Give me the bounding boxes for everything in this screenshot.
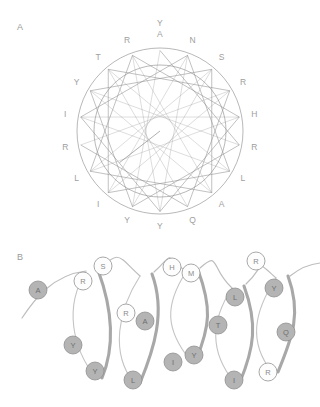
helix-back-arc — [119, 276, 140, 383]
residue-letter-label: A — [142, 317, 147, 326]
wheel-residue-label: Y — [74, 77, 80, 87]
wheel-residue-label: L — [74, 173, 79, 183]
helix-residue-node: I — [225, 371, 243, 389]
helix-turn-connector — [200, 261, 232, 288]
helix-residue-node: T — [209, 316, 227, 334]
wheel-residue-label: Y — [157, 18, 163, 28]
wheel-connector-line — [90, 117, 239, 171]
helix-residue-node: R — [259, 363, 277, 381]
residue-letter-label: M — [188, 269, 194, 278]
residue-letter-label: R — [265, 368, 271, 377]
helical-wheel-diagram: YANSRHRLAQYYILRIYTR — [62, 18, 258, 231]
helix-residue-node: I — [164, 353, 182, 371]
residue-letter-label: R — [123, 309, 129, 318]
helix-residue-node: S — [94, 257, 112, 275]
residue-letter-label: L — [131, 376, 135, 385]
helix-residue-node: R — [247, 252, 265, 270]
residue-letter-label: Y — [70, 341, 75, 350]
residue-letter-label: R — [253, 257, 259, 266]
wheel-residue-label: R — [251, 142, 257, 152]
helix-c-terminal-tail — [290, 263, 320, 276]
wheel-residue-label: N — [190, 35, 196, 45]
wheel-connector-line — [108, 69, 187, 206]
wheel-connector-line — [81, 117, 230, 171]
helix-front-ribbon — [98, 270, 111, 378]
wheel-residue-label: Y — [157, 221, 163, 231]
helix-residue-node: Y — [86, 362, 104, 380]
wheel-connector-line — [90, 91, 239, 145]
residue-letter-label: I — [233, 376, 235, 385]
residue-letter-label: Q — [283, 328, 289, 337]
wheel-residue-label: R — [124, 35, 130, 45]
wheel-residue-label: R — [62, 142, 68, 152]
helix-residue-node: L — [124, 371, 142, 389]
helix-residue-node: H — [163, 258, 181, 276]
figure-svg: YANSRHRLAQYYILRIYTR ARSYYRALHMIYLTIRYQR — [0, 0, 320, 407]
helix-residue-node: R — [117, 304, 135, 322]
wheel-residue-label: S — [219, 52, 225, 62]
hydrophobic-moment-arrow — [119, 131, 160, 163]
helix-residue-node: Q — [277, 323, 295, 341]
wheel-residue-label: Q — [189, 215, 196, 225]
wheel-residue-label: H — [251, 109, 257, 119]
helix-back-arc — [171, 272, 190, 360]
helical-net-diagram: ARSYYRALHMIYLTIRYQR — [22, 252, 320, 389]
figure-container: A B YANSRHRLAQYYILRIYTR ARSYYRALHMIYLTIR… — [0, 0, 320, 407]
wheel-residue-label: T — [96, 52, 102, 62]
helix-residue-node: Y — [185, 346, 203, 364]
residue-letter-label: R — [80, 277, 86, 286]
helix-residue-node: Y — [265, 279, 283, 297]
helix-residue-node: M — [182, 264, 200, 282]
wheel-connector-line — [81, 91, 230, 145]
wheel-residue-label: Y — [124, 215, 130, 225]
helix-residue-node: L — [226, 288, 244, 306]
residue-letter-label: S — [100, 262, 105, 271]
residue-letter-label: T — [216, 321, 221, 330]
residue-letter-label: Y — [191, 351, 196, 360]
wheel-residue-label: I — [64, 109, 67, 119]
residue-letter-label: H — [169, 263, 174, 272]
helix-residue-node: A — [29, 281, 47, 299]
wheel-residue-label: A — [157, 29, 163, 39]
wheel-residue-label: I — [97, 199, 100, 209]
panel-b-label: B — [17, 252, 24, 262]
residue-letter-label: I — [172, 358, 174, 367]
wheel-residue-label: L — [241, 173, 246, 183]
wheel-residue-label: A — [219, 199, 225, 209]
wheel-residue-label: R — [240, 77, 246, 87]
residue-letter-label: Y — [92, 367, 97, 376]
residue-letter-label: A — [35, 286, 40, 295]
helix-residue-node: R — [74, 272, 92, 290]
helix-residue-node: Y — [64, 336, 82, 354]
residue-letter-label: Y — [271, 284, 276, 293]
residue-letter-label: L — [233, 293, 237, 302]
helix-residue-node: A — [136, 312, 154, 330]
panel-a-label: A — [17, 22, 24, 32]
